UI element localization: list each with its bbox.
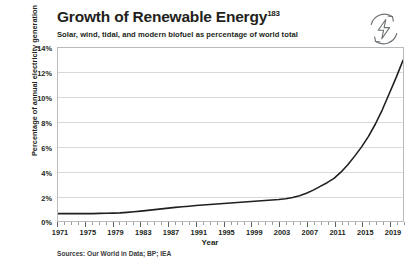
- y-tick-label-14: 14%: [24, 44, 52, 53]
- x-tick-minor-2004: [286, 222, 287, 225]
- x-tick-minor-2005: [293, 222, 294, 225]
- x-tick-minor-2021: [404, 222, 405, 225]
- series-line-renewables: [58, 48, 403, 221]
- x-tick-minor-1978: [106, 222, 107, 225]
- x-tick-major-2003: [279, 222, 280, 227]
- x-tick-minor-1988: [175, 222, 176, 225]
- x-tick-minor-1998: [244, 222, 245, 225]
- x-tick-minor-2012: [342, 222, 343, 225]
- x-tick-label-2003: 2003: [274, 228, 290, 237]
- x-tick-minor-2020: [397, 222, 398, 225]
- x-tick-minor-1973: [71, 222, 72, 225]
- x-tick-major-2007: [307, 222, 308, 227]
- x-tick-major-1975: [85, 222, 86, 227]
- y-tick-label-2: 2%: [24, 194, 52, 203]
- x-tick-major-1999: [251, 222, 252, 227]
- y-tick-label-4: 4%: [24, 169, 52, 178]
- x-tick-minor-1992: [203, 222, 204, 225]
- y-tick-label-6: 6%: [24, 144, 52, 153]
- x-tick-minor-2001: [265, 222, 266, 225]
- x-tick-minor-1985: [154, 222, 155, 225]
- x-tick-minor-1972: [64, 222, 65, 225]
- x-tick-label-1999: 1999: [246, 228, 262, 237]
- x-tick-minor-1984: [147, 222, 148, 225]
- x-tick-minor-2000: [258, 222, 259, 225]
- x-tick-label-1987: 1987: [163, 228, 179, 237]
- chart-page: Growth of Renewable Energy183 Solar, win…: [0, 0, 420, 269]
- x-tick-label-2015: 2015: [357, 228, 373, 237]
- x-tick-minor-1981: [126, 222, 127, 225]
- x-tick-minor-2009: [321, 222, 322, 225]
- x-tick-minor-2010: [328, 222, 329, 225]
- x-tick-minor-1993: [210, 222, 211, 225]
- x-tick-label-1995: 1995: [218, 228, 234, 237]
- page-title-superscript: 183: [267, 9, 280, 18]
- x-tick-major-1983: [140, 222, 141, 227]
- x-tick-minor-1997: [237, 222, 238, 225]
- page-title-text: Growth of Renewable Energy: [57, 8, 267, 25]
- x-tick-minor-1990: [189, 222, 190, 225]
- page-subtitle: Solar, wind, tidal, and modern biofuel a…: [57, 30, 298, 39]
- x-tick-major-1987: [168, 222, 169, 227]
- y-tick-label-10: 10%: [24, 94, 52, 103]
- x-tick-minor-1976: [92, 222, 93, 225]
- x-tick-major-1995: [224, 222, 225, 227]
- x-tick-major-1971: [57, 222, 58, 227]
- x-tick-major-1979: [113, 222, 114, 227]
- x-tick-minor-2017: [376, 222, 377, 225]
- y-tick-label-0: 0%: [24, 218, 52, 227]
- y-tick-label-12: 12%: [24, 69, 52, 78]
- x-tick-minor-2018: [383, 222, 384, 225]
- x-tick-minor-1977: [99, 222, 100, 225]
- x-axis-label: Year: [0, 238, 420, 247]
- x-tick-minor-2006: [300, 222, 301, 225]
- x-tick-minor-1980: [119, 222, 120, 225]
- sources-note: Sources: Our World in Data; BP; IEA: [57, 250, 171, 257]
- x-tick-minor-1994: [217, 222, 218, 225]
- x-tick-label-2011: 2011: [329, 228, 345, 237]
- x-tick-label-2019: 2019: [385, 228, 401, 237]
- x-tick-minor-2016: [369, 222, 370, 225]
- x-tick-label-1975: 1975: [80, 228, 96, 237]
- x-tick-minor-1986: [161, 222, 162, 225]
- x-tick-label-2007: 2007: [302, 228, 318, 237]
- x-tick-major-2019: [390, 222, 391, 227]
- x-tick-minor-1982: [133, 222, 134, 225]
- page-title: Growth of Renewable Energy183: [57, 8, 280, 26]
- x-tick-minor-2014: [355, 222, 356, 225]
- x-tick-minor-2013: [348, 222, 349, 225]
- y-tick-label-8: 8%: [24, 119, 52, 128]
- x-tick-label-1979: 1979: [107, 228, 123, 237]
- x-tick-label-1991: 1991: [191, 228, 207, 237]
- x-tick-minor-2008: [314, 222, 315, 225]
- x-tick-minor-1996: [231, 222, 232, 225]
- x-tick-major-1991: [196, 222, 197, 227]
- x-tick-minor-1974: [78, 222, 79, 225]
- x-tick-major-2015: [362, 222, 363, 227]
- x-tick-label-1971: 1971: [52, 228, 68, 237]
- renewable-energy-icon: [362, 7, 406, 51]
- x-tick-major-2011: [335, 222, 336, 227]
- x-tick-minor-1989: [182, 222, 183, 225]
- x-tick-minor-2002: [272, 222, 273, 225]
- x-tick-label-1983: 1983: [135, 228, 151, 237]
- plot-area: [57, 47, 404, 222]
